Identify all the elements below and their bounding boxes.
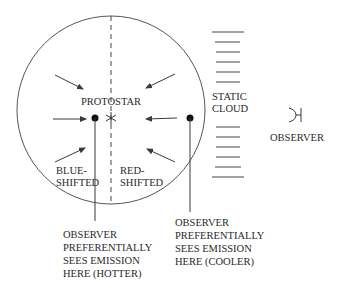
observer-eye-icon — [289, 108, 301, 122]
arrow-mid-right-icon — [146, 118, 177, 119]
cooler-note-4: HERE (COOLER) — [175, 256, 255, 268]
blue-shifted-label-2: SHIFTED — [56, 177, 100, 188]
red-shifted-label: RED- — [120, 165, 145, 176]
protostar-star-icon — [106, 112, 116, 124]
cooler-note-2: PREFERENTIALLY — [175, 230, 265, 241]
arrow-top-right-icon — [146, 74, 175, 88]
observer-label: OBSERVER — [270, 132, 324, 143]
hotter-note-4: HERE (HOTTER) — [63, 268, 142, 280]
hotter-note: OBSERVER — [63, 229, 117, 240]
static-cloud-label: STATIC — [212, 91, 247, 102]
red-shifted-label-2: SHIFTED — [120, 177, 164, 188]
blue-shifted-label: BLUE- — [56, 165, 87, 176]
arrow-bottom-left-icon — [55, 148, 85, 162]
infall-arrows — [53, 74, 177, 162]
diagram-canvas: PROTOSTAR BLUE- SHIFTED RED- SHIFTED STA… — [0, 0, 337, 290]
cooler-note-3: SEES EMISSION — [175, 243, 252, 254]
hotter-note-3: SEES EMISSION — [63, 255, 140, 266]
arrow-top-left-icon — [55, 75, 83, 89]
protostar-label: PROTOSTAR — [81, 96, 141, 107]
cooler-note: OBSERVER — [175, 217, 229, 228]
static-cloud-label-2: CLOUD — [212, 103, 249, 114]
hotter-note-2: PREFERENTIALLY — [63, 242, 153, 253]
arrow-bottom-right-icon — [147, 149, 175, 162]
